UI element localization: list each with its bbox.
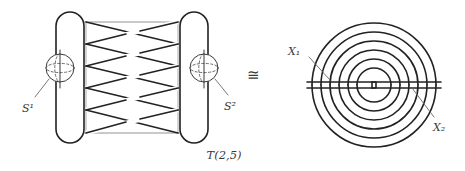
x1-label: X₁ bbox=[287, 45, 300, 58]
sphere-s1-label: S¹ bbox=[22, 102, 34, 115]
congruence-symbol: ≅ bbox=[247, 66, 260, 84]
x2-label: X₂ bbox=[432, 121, 445, 134]
figure-caption: T(2,5) bbox=[207, 148, 242, 162]
sphere-s2-label: S² bbox=[224, 100, 236, 113]
topology-figure-svg: S¹ S² T(2,5) ≅ bbox=[0, 0, 465, 171]
figure-container: S¹ S² T(2,5) ≅ bbox=[0, 0, 465, 171]
